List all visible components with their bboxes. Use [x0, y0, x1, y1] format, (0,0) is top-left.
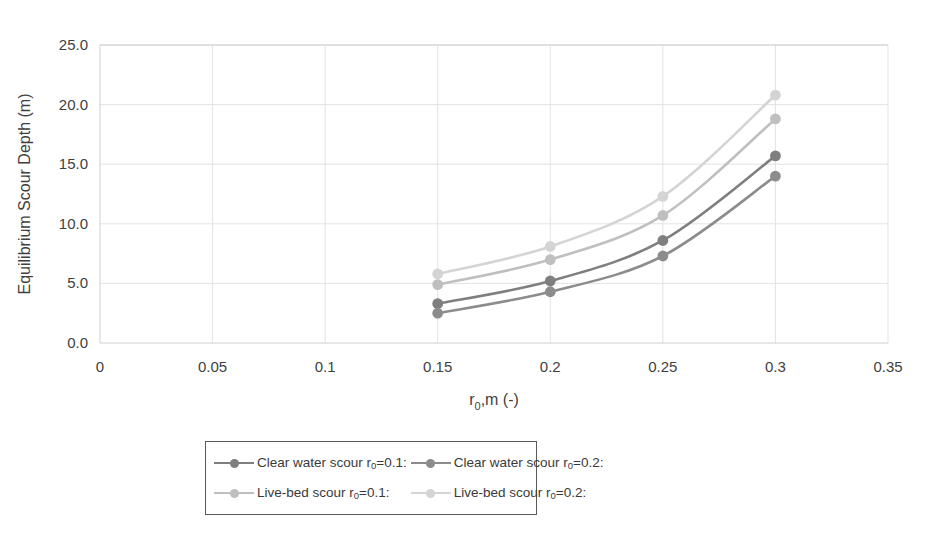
x-axis-tick-labels: 00.050.10.150.20.250.30.35 [96, 358, 903, 375]
y-axis-title: Equilibrium Scour Depth (m) [16, 94, 33, 295]
y-tick-label: 10.0 [59, 215, 88, 232]
series-data-point [770, 114, 781, 125]
series-data-point [657, 210, 668, 221]
series-data-point [770, 90, 781, 101]
x-tick-label: 0 [96, 358, 104, 375]
x-tick-label: 0.35 [873, 358, 902, 375]
series-line [438, 156, 776, 304]
series-data-point [432, 268, 443, 279]
chart-figure: 0.05.010.015.020.025.0 00.050.10.150.20.… [0, 0, 934, 540]
series-data-point [657, 235, 668, 246]
x-tick-label: 0.2 [540, 358, 561, 375]
legend-item[interactable]: Clear water scour r0=0.1: [214, 456, 407, 470]
series-data-point [545, 254, 556, 265]
line-chart: 0.05.010.015.020.025.0 00.050.10.150.20.… [0, 0, 934, 430]
y-tick-label: 20.0 [59, 96, 88, 113]
legend-item[interactable]: Clear water scour r0=0.2: [407, 456, 604, 470]
x-axis-title-text: r0,m (-) [469, 391, 519, 412]
x-tick-label: 0.1 [315, 358, 336, 375]
x-tick-label: 0.15 [423, 358, 452, 375]
legend-marker-icon [426, 489, 435, 498]
legend-label-subscript: 0 [371, 460, 376, 471]
series-data-point [770, 171, 781, 182]
series-line [438, 95, 776, 274]
series-data-point [545, 286, 556, 297]
chart-legend: Clear water scour r0=0.1:Clear water sco… [205, 441, 537, 515]
grid-lines [100, 45, 888, 343]
x-tick-label: 0.3 [765, 358, 786, 375]
x-axis-title: r0,m (-) [469, 391, 519, 412]
legend-item-label: Live-bed scour r0=0.2: [454, 486, 587, 500]
series-data-point [657, 191, 668, 202]
legend-item[interactable]: Live-bed scour r0=0.1: [214, 486, 407, 500]
legend-item[interactable]: Live-bed scour r0=0.2: [407, 486, 604, 500]
series-data-point [770, 150, 781, 161]
series-data-point [432, 308, 443, 319]
legend-swatch-icon [214, 487, 254, 499]
data-series-group [432, 90, 781, 319]
y-tick-label: 15.0 [59, 155, 88, 172]
y-tick-label: 25.0 [59, 36, 88, 53]
legend-item-label: Live-bed scour r0=0.1: [257, 486, 390, 500]
legend-marker-icon [230, 459, 239, 468]
x-tick-label: 0.05 [198, 358, 227, 375]
y-axis-title-text: Equilibrium Scour Depth (m) [16, 94, 33, 295]
y-tick-label: 5.0 [67, 274, 88, 291]
legend-item-label: Clear water scour r0=0.1: [257, 456, 407, 470]
plot-area-wrapper: 0.05.010.015.020.025.0 00.050.10.150.20.… [0, 0, 934, 430]
axis-lines [100, 45, 888, 343]
legend-swatch-icon [411, 457, 451, 469]
y-axis-tick-labels: 0.05.010.015.020.025.0 [59, 36, 88, 351]
legend-swatch-icon [214, 457, 254, 469]
series-data-point [432, 298, 443, 309]
legend-label-subscript: 0 [551, 490, 556, 501]
legend-swatch-icon [411, 487, 451, 499]
series-data-point [432, 279, 443, 290]
legend-grid: Clear water scour r0=0.1:Clear water sco… [214, 448, 528, 508]
legend-label-subscript: 0 [354, 490, 359, 501]
legend-item-label: Clear water scour r0=0.2: [454, 456, 604, 470]
y-tick-label: 0.0 [67, 334, 88, 351]
x-tick-label: 0.25 [648, 358, 677, 375]
legend-label-subscript: 0 [568, 460, 573, 471]
series-data-point [545, 276, 556, 287]
series-data-point [657, 251, 668, 262]
series-data-point [545, 241, 556, 252]
legend-marker-icon [230, 489, 239, 498]
legend-marker-icon [426, 459, 435, 468]
